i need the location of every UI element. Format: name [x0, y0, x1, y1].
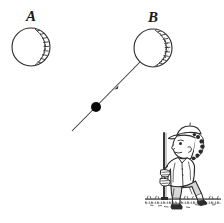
ball-a-label: A [25, 8, 36, 24]
figure-canvas: A B [0, 0, 224, 223]
illustration-svg: A B [0, 0, 224, 223]
ball-b-label: B [147, 9, 158, 25]
trajectory-point [91, 102, 101, 112]
golfer-hand-upper [161, 170, 171, 178]
golfer-hand-lower [160, 178, 170, 186]
